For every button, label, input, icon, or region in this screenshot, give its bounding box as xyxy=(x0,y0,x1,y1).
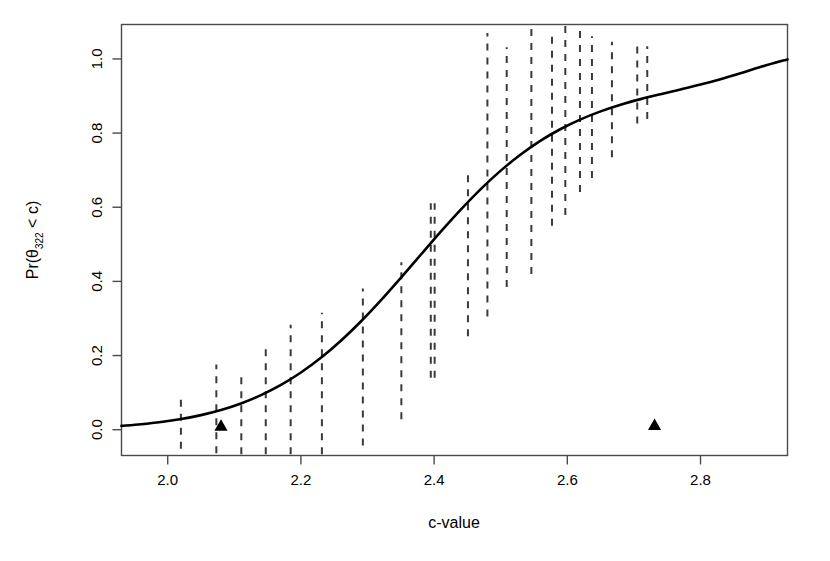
y-axis-title-suffix: < c) xyxy=(24,201,41,233)
y-tick-label: 0.4 xyxy=(88,271,105,292)
y-axis-title-prefix: Pr(θ xyxy=(24,249,41,279)
x-tick-label: 2.0 xyxy=(157,471,178,488)
y-axis-title-subscript: 322 xyxy=(34,232,45,249)
y-tick-label: 0.0 xyxy=(88,419,105,440)
y-tick-label: 1.0 xyxy=(88,49,105,70)
y-tick-label: 0.6 xyxy=(88,197,105,218)
y-tick-label: 0.2 xyxy=(88,345,105,366)
y-tick-label: 0.8 xyxy=(88,123,105,144)
x-tick-label: 2.2 xyxy=(290,471,311,488)
x-axis-title: c-value xyxy=(428,514,480,531)
x-tick-label: 2.4 xyxy=(424,471,445,488)
x-tick-label: 2.8 xyxy=(690,471,711,488)
chart-figure: 2.02.22.42.62.8 0.00.20.40.60.81.0 c-val… xyxy=(0,0,830,561)
x-tick-label: 2.6 xyxy=(557,471,578,488)
